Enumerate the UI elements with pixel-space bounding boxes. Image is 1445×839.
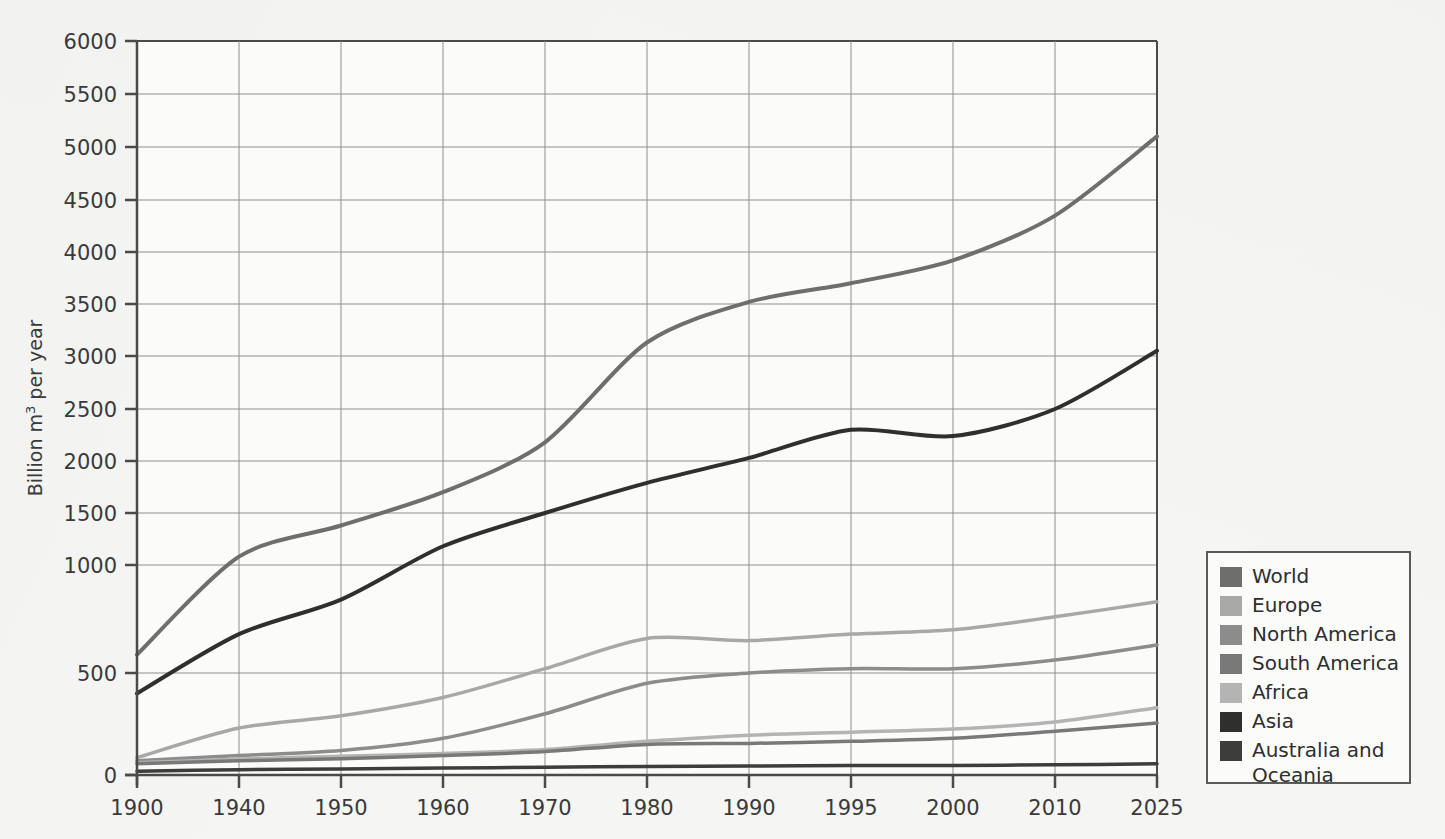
chart-page: 0500100015002000250030003500400045005000… bbox=[0, 0, 1445, 839]
legend-item: Africa bbox=[1220, 680, 1409, 708]
legend-label: Europe bbox=[1252, 593, 1322, 618]
y-tick-label: 2000 bbox=[64, 450, 117, 474]
legend-item: Australia and Oceania bbox=[1220, 738, 1409, 792]
legend-swatch bbox=[1220, 596, 1242, 616]
y-tick-label: 1000 bbox=[64, 554, 117, 578]
x-tick-label: 1980 bbox=[620, 796, 673, 820]
x-tick-label: 1960 bbox=[416, 796, 469, 820]
legend-item: World bbox=[1220, 564, 1409, 592]
y-tick-label: 0 bbox=[104, 764, 117, 788]
legend-swatch bbox=[1220, 683, 1242, 703]
legend-swatch bbox=[1220, 625, 1242, 645]
y-tick-label: 5500 bbox=[64, 83, 117, 107]
y-tick-label: 4000 bbox=[64, 241, 117, 265]
legend-item: Europe bbox=[1220, 593, 1409, 621]
y-axis-title: Billion m3 per year bbox=[23, 319, 46, 496]
x-tick-label: 1995 bbox=[824, 796, 877, 820]
x-tick-label: 1950 bbox=[314, 796, 367, 820]
legend-item: Asia bbox=[1220, 709, 1409, 737]
legend-item: North America bbox=[1220, 622, 1409, 650]
svg-text:Billion m3 per year: Billion m3 per year bbox=[23, 319, 46, 496]
legend-label: Africa bbox=[1252, 680, 1309, 705]
y-tick-label: 1500 bbox=[64, 502, 117, 526]
x-tick-label: 1900 bbox=[110, 796, 163, 820]
x-tick-label: 2025 bbox=[1130, 796, 1183, 820]
legend-label: North America bbox=[1252, 622, 1397, 647]
legend-label: Australia and Oceania bbox=[1252, 738, 1384, 788]
x-tick-label: 1990 bbox=[722, 796, 775, 820]
y-tick-label: 500 bbox=[77, 662, 117, 686]
y-tick-label: 4500 bbox=[64, 189, 117, 213]
y-tick-label: 3500 bbox=[64, 293, 117, 317]
y-tick-label: 5000 bbox=[64, 136, 117, 160]
legend-swatch bbox=[1220, 654, 1242, 674]
legend-swatch bbox=[1220, 741, 1242, 761]
chart-legend: WorldEurope North America South AmericaA… bbox=[1206, 551, 1411, 784]
legend-label: Asia bbox=[1252, 709, 1294, 734]
x-tick-label: 2000 bbox=[926, 796, 979, 820]
y-tick-label: 2500 bbox=[64, 398, 117, 422]
y-tick-label: 3000 bbox=[64, 345, 117, 369]
legend-swatch bbox=[1220, 567, 1242, 587]
legend-label: World bbox=[1252, 564, 1309, 589]
legend-label: South America bbox=[1252, 651, 1399, 676]
legend-item: South America bbox=[1220, 651, 1409, 679]
x-tick-label: 1970 bbox=[518, 796, 571, 820]
legend-swatch bbox=[1220, 712, 1242, 732]
x-tick-label: 2010 bbox=[1028, 796, 1081, 820]
y-tick-label: 6000 bbox=[64, 30, 117, 54]
x-tick-label: 1940 bbox=[212, 796, 265, 820]
